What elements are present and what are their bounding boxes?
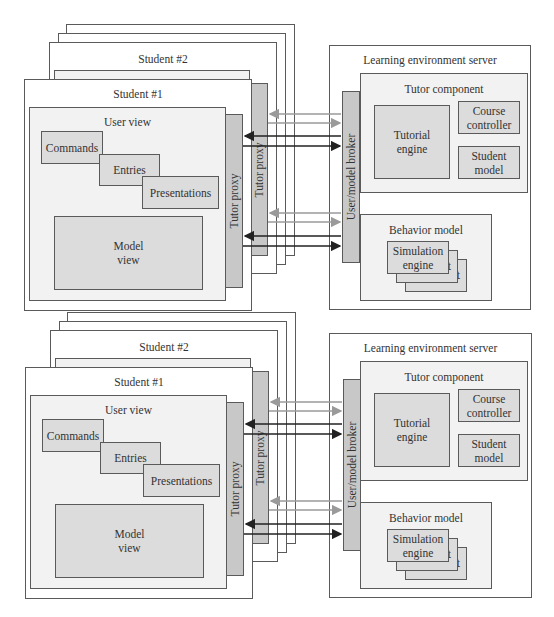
architecture-diagram-bottom: Student #2 User View Tutor proxy Student… <box>0 288 554 598</box>
user-model-broker: User/model broker <box>342 91 360 263</box>
course-controller-label: Course controller <box>459 390 519 421</box>
tutor-component-title: Tutor component <box>361 83 527 96</box>
simulation-engine-label: Simulation engine <box>388 530 448 561</box>
user-model-broker-label: User/model broker <box>346 422 358 509</box>
student2-title: Student #2 <box>51 341 277 354</box>
commands-label: Commands <box>42 132 102 163</box>
server-title: Learning environment server <box>330 342 531 355</box>
model-view-box: Model view <box>55 504 204 578</box>
behavior-model-title: Behavior model <box>361 512 491 525</box>
behavior-model: Behavior model t t Simulation engine <box>360 502 492 589</box>
student-model-label: Student model <box>459 147 519 178</box>
commands-box: Commands <box>41 131 103 164</box>
user-view-title: User view <box>30 116 225 129</box>
user-view: User view Commands Entries Presentations… <box>29 107 226 301</box>
architecture-diagram-top: Student #2 User View Tutor proxy Student… <box>0 0 554 310</box>
student2-title: Student #2 <box>50 53 276 66</box>
tutor-proxy-front-label: Tutor proxy <box>228 174 240 229</box>
model-view-box: Model view <box>54 216 203 290</box>
tutor-proxy-back: Tutor proxy <box>251 83 268 256</box>
user-view: User view Commands Entries Presentations… <box>30 395 227 589</box>
tutor-proxy-back-label: Tutor proxy <box>255 430 267 485</box>
student1-frame: Student #1 User view Commands Entries Pr… <box>25 367 253 599</box>
presentations-box: Presentations <box>142 176 219 209</box>
tutorial-engine-box: Tutorial engine <box>374 393 450 467</box>
student-model-box: Student model <box>458 146 520 179</box>
tutor-component-title: Tutor component <box>361 371 527 384</box>
student-model-label: Student model <box>459 435 519 466</box>
tutor-component: Tutor component Tutorial engine Course c… <box>360 73 528 193</box>
presentations-label: Presentations <box>144 465 219 496</box>
tutorial-engine-label: Tutorial engine <box>375 106 449 178</box>
commands-label: Commands <box>43 420 103 451</box>
tutor-proxy-front-label: Tutor proxy <box>229 462 241 517</box>
tutor-proxy-front: Tutor proxy <box>225 114 243 288</box>
presentations-label: Presentations <box>143 177 218 208</box>
course-controller-label: Course controller <box>459 102 519 133</box>
server-title: Learning environment server <box>330 54 530 67</box>
behavior-model-title: Behavior model <box>361 224 491 237</box>
student1-title: Student #1 <box>25 88 251 101</box>
simulation-engine-box: Simulation engine <box>387 529 449 562</box>
student1-title: Student #1 <box>26 376 252 389</box>
tutorial-engine-label: Tutorial engine <box>375 394 449 466</box>
tutor-component: Tutor component Tutorial engine Course c… <box>360 361 528 481</box>
course-controller-box: Course controller <box>458 389 520 422</box>
tutor-proxy-front: Tutor proxy <box>226 402 244 576</box>
tutor-proxy-back: Tutor proxy <box>252 371 269 544</box>
user-view-title: User view <box>31 404 226 417</box>
model-view-label: Model view <box>56 505 203 577</box>
user-model-broker-label: User/model broker <box>345 134 357 221</box>
course-controller-box: Course controller <box>458 101 520 134</box>
tutor-proxy-back-label: Tutor proxy <box>254 142 266 197</box>
user-model-broker: User/model broker <box>343 379 361 551</box>
simulation-engine-box: Simulation engine <box>387 241 449 274</box>
commands-box: Commands <box>42 419 104 452</box>
student-model-box: Student model <box>458 434 520 467</box>
student1-frame: Student #1 User view Commands Entries Pr… <box>24 79 252 311</box>
model-view-label: Model view <box>55 217 202 289</box>
presentations-box: Presentations <box>143 464 220 497</box>
simulation-engine-label: Simulation engine <box>388 242 448 273</box>
tutorial-engine-box: Tutorial engine <box>374 105 450 179</box>
